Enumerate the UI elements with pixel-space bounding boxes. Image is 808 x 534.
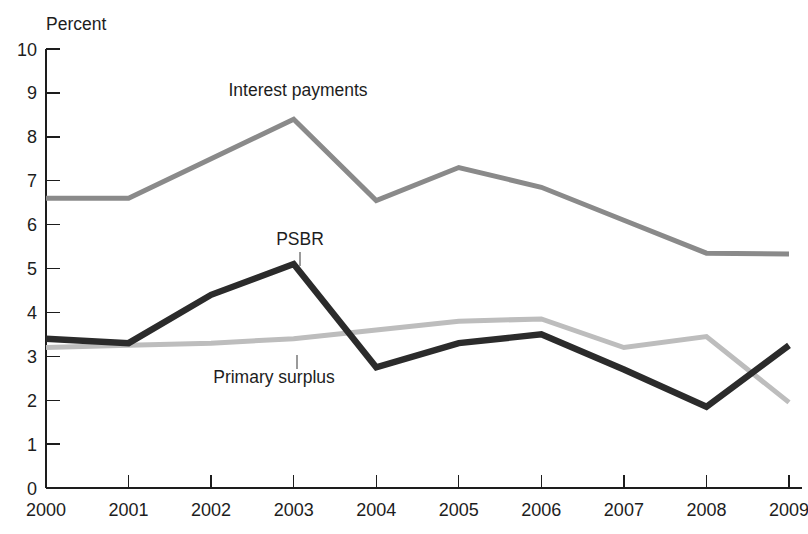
y-tick-label: 2 (27, 391, 37, 411)
x-tick-label: 2008 (686, 500, 726, 520)
y-tick-label: 1 (27, 435, 37, 455)
x-tick-label: 2001 (109, 500, 149, 520)
series-line-primary-surplus (46, 319, 789, 402)
y-tick-label: 8 (27, 127, 37, 147)
line-chart: 012345678910 200020012002200320042005200… (0, 0, 808, 534)
y-axis-unit-label: Percent (46, 14, 106, 34)
y-tick-layer: 012345678910 (17, 40, 60, 499)
series-label-primary-surplus: Primary surplus (213, 367, 335, 387)
x-tick-label: 2004 (356, 500, 396, 520)
x-tick-label: 2005 (439, 500, 479, 520)
y-tick-label: 3 (27, 347, 37, 367)
y-tick-label: 7 (27, 171, 37, 191)
series-line-psbr (46, 264, 789, 407)
x-tick-label: 2009 (769, 500, 808, 520)
series-layer (46, 119, 789, 407)
x-tick-label: 2002 (191, 500, 231, 520)
chart-container: 012345678910 200020012002200320042005200… (0, 0, 808, 534)
x-tick-label: 2003 (274, 500, 314, 520)
y-tick-label: 4 (27, 303, 37, 323)
y-tick-label: 6 (27, 215, 37, 235)
axis-layer (46, 49, 802, 488)
series-label-psbr: PSBR (276, 229, 324, 249)
x-tick-label: 2006 (521, 500, 561, 520)
y-tick-label: 9 (27, 83, 37, 103)
series-line-interest-payments (46, 119, 789, 254)
x-tick-layer: 2000200120022003200420052006200720082009 (26, 475, 808, 520)
x-tick-label: 2000 (26, 500, 66, 520)
y-tick-label: 5 (27, 259, 37, 279)
y-tick-label: 0 (27, 479, 37, 499)
series-label-interest-payments: Interest payments (228, 80, 367, 100)
x-tick-label: 2007 (604, 500, 644, 520)
y-tick-label: 10 (17, 40, 37, 60)
